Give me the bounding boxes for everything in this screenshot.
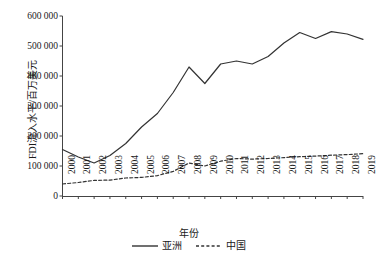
legend-line-dashed-icon [196, 242, 222, 250]
x-tick-label: 2017 [335, 155, 345, 201]
x-tick-label-group: 2000200120022003200420052006200720082009… [0, 0, 377, 259]
x-tick-label: 2014 [288, 155, 298, 201]
x-tick-label: 2010 [225, 155, 235, 201]
x-axis-title: 年份 [0, 228, 377, 239]
figure: 0100 000200 000300 000400 000500 000600 … [0, 0, 377, 259]
legend-label-asia: 亚洲 [162, 240, 182, 252]
x-tick-label: 2008 [193, 155, 203, 201]
x-tick-label: 2011 [240, 155, 250, 201]
x-tick-label: 2002 [98, 155, 108, 201]
x-tick-label: 2009 [209, 155, 219, 201]
x-tick-label: 2001 [82, 155, 92, 201]
x-tick-label: 2003 [114, 155, 124, 201]
legend-item-china[interactable]: 中国 [196, 240, 246, 252]
x-tick-label: 2006 [161, 155, 171, 201]
x-tick-label: 2018 [351, 155, 361, 201]
x-tick-label: 2000 [67, 155, 77, 201]
x-tick-label: 2005 [146, 155, 156, 201]
legend-item-asia[interactable]: 亚洲 [132, 240, 182, 252]
x-tick-label: 2004 [130, 155, 140, 201]
x-tick-label: 2007 [177, 155, 187, 201]
legend-label-china: 中国 [226, 240, 246, 252]
legend-line-solid-icon [132, 242, 158, 250]
x-tick-label: 2019 [367, 155, 377, 201]
chart-legend: 亚洲 中国 [0, 240, 377, 252]
x-tick-label: 2015 [304, 155, 314, 201]
x-tick-label: 2013 [272, 155, 282, 201]
x-tick-label: 2016 [320, 155, 330, 201]
x-tick-label: 2012 [256, 155, 266, 201]
